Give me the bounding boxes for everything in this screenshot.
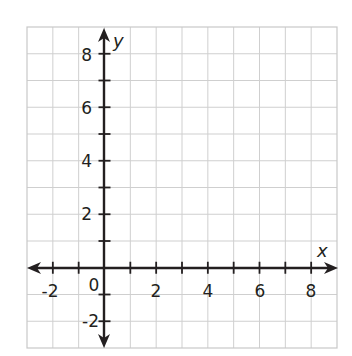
coordinate-plane: y x -2 0 2 4 6 8 8 6 4 2 -2 [0,0,352,356]
origin-label: 0 [89,275,100,295]
x-axis-label: x [316,240,328,261]
x-tick-label-4: 4 [203,281,214,301]
y-tick-label-4: 4 [81,151,92,171]
y-tick-label-neg2: -2 [82,311,99,331]
x-tick-label-6: 6 [255,281,266,301]
x-tick-label-neg2: -2 [42,281,59,301]
y-axis-label: y [112,30,124,51]
y-tick-label-6: 6 [81,98,92,118]
x-tick-label-2: 2 [151,281,162,301]
coordinate-grid-svg: y x -2 0 2 4 6 8 8 6 4 2 -2 [0,0,352,356]
y-tick-label-8: 8 [81,45,92,65]
y-tick-label-2: 2 [81,204,92,224]
x-tick-label-8: 8 [306,281,317,301]
grid-lines [27,27,337,348]
